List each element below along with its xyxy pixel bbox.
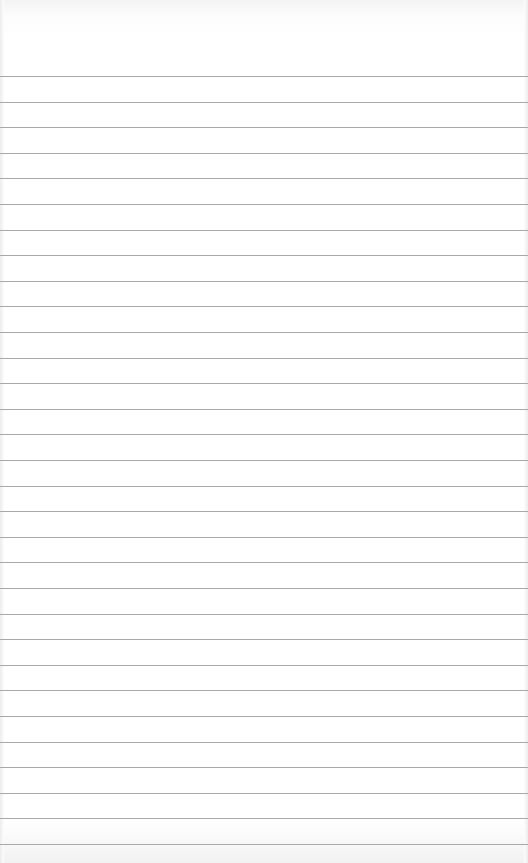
ruled-line [0,127,528,128]
ruled-line [0,793,528,794]
ruled-line [0,332,528,333]
ruled-line [0,358,528,359]
ruled-line [0,537,528,538]
ruled-line [0,204,528,205]
ruled-line [0,690,528,691]
ruled-line [0,639,528,640]
ruled-line [0,409,528,410]
ruled-line [0,844,528,845]
ruled-line [0,716,528,717]
paper-left-edge [0,0,4,863]
ruled-line [0,511,528,512]
ruled-line [0,614,528,615]
ruled-line [0,178,528,179]
ruled-line [0,665,528,666]
ruled-line [0,281,528,282]
paper-right-edge [524,0,528,863]
ruled-line [0,588,528,589]
ruled-line [0,818,528,819]
ruled-line [0,742,528,743]
ruled-line [0,486,528,487]
ruled-line [0,230,528,231]
ruled-line [0,383,528,384]
ruled-line [0,102,528,103]
ruled-line [0,434,528,435]
ruled-line [0,767,528,768]
ruled-line [0,460,528,461]
ruled-paper [0,0,528,863]
ruled-line [0,306,528,307]
ruled-line [0,255,528,256]
ruled-line [0,153,528,154]
ruled-line [0,562,528,563]
ruled-line [0,76,528,77]
